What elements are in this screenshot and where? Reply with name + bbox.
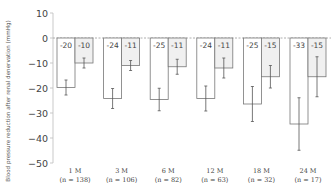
bar-value-label: -24	[106, 41, 118, 50]
bar-value-label: -33	[293, 41, 305, 50]
x-category-label: 6 M	[162, 167, 175, 175]
bar-value-label: -11	[171, 41, 183, 50]
bars: -20-10-24-11-25-11-24-11-25-15-33-15	[57, 38, 326, 150]
y-tick-label: 10	[36, 8, 48, 19]
x-category-sublabel: (n = 17)	[294, 176, 322, 184]
y-tick-label: −40	[28, 133, 48, 144]
bar-group-3m: -24-11	[104, 38, 140, 109]
bar-value-label: -24	[200, 41, 212, 50]
bar-value-label: -11	[124, 41, 136, 50]
y-tick-label: 0	[42, 33, 48, 44]
bar-value-label: -15	[264, 41, 276, 50]
y-axis: 100−10−20−30−40−50	[28, 8, 331, 169]
x-category-sublabel: (n = 63)	[201, 176, 229, 184]
bar-value-label: -11	[218, 41, 230, 50]
x-axis-labels: 1 M(n = 138)3 M(n = 106)6 M(n = 82)12 M(…	[59, 167, 322, 184]
x-category-label: 3 M	[115, 167, 128, 175]
bar-group-18m: -25-15	[243, 38, 279, 122]
y-tick-label: −20	[28, 83, 48, 94]
bar-value-label: -25	[153, 41, 165, 50]
bar-group-24m: -33-15	[290, 38, 326, 150]
y-axis-label: Blood pressure reduction after renal den…	[5, 20, 12, 181]
x-category-label: 1 M	[69, 167, 82, 175]
bar-value-label: -15	[311, 41, 323, 50]
bar-group-6m: -25-11	[150, 38, 186, 111]
y-tick-label: −50	[28, 158, 48, 169]
x-category-sublabel: (n = 32)	[248, 176, 276, 184]
y-tick-label: −10	[28, 58, 48, 69]
y-tick-label: −30	[28, 108, 48, 119]
x-category-label: 24 M	[300, 167, 317, 175]
x-category-sublabel: (n = 106)	[106, 176, 138, 184]
bar-chart: 100−10−20−30−40−50 -20-10-24-11-25-11-24…	[0, 0, 334, 196]
x-category-sublabel: (n = 82)	[155, 176, 183, 184]
bar-group-12m: -24-11	[197, 38, 233, 111]
x-category-sublabel: (n = 138)	[59, 176, 91, 184]
x-category-label: 18 M	[253, 167, 270, 175]
bar-value-label: -25	[246, 41, 258, 50]
bar-value-label: -20	[60, 41, 72, 50]
bar-value-label: -10	[78, 41, 90, 50]
bar-group-1m: -20-10	[57, 38, 93, 95]
x-category-label: 12 M	[206, 167, 223, 175]
